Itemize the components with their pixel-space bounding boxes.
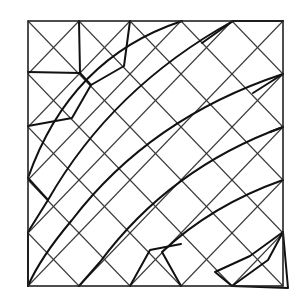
transition-edge (80, 73, 91, 85)
diagonal-lattice (28, 21, 283, 286)
transition-edge (28, 178, 48, 200)
mesh-svg (0, 0, 296, 301)
arc-line (162, 180, 283, 286)
transition-edge (202, 21, 233, 43)
arc-line (79, 127, 283, 286)
arc-line (28, 74, 283, 286)
transition-edge (130, 244, 181, 286)
mesh-diagram (0, 0, 296, 301)
